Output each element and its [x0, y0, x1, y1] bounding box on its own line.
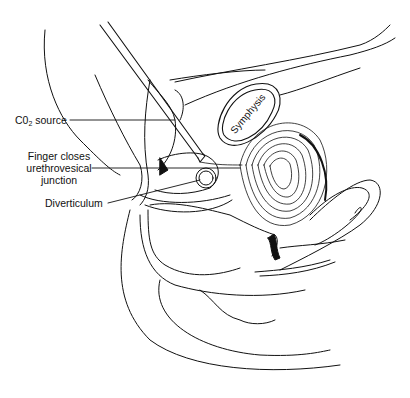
label-co2-source: C02 source: [15, 114, 67, 130]
co2-tube: [100, 22, 205, 162]
label-finger-line2: urethrovesical: [24, 162, 94, 174]
lower-outline: [121, 210, 340, 370]
uterus: [280, 180, 380, 270]
label-co2-rest: source: [32, 114, 66, 126]
bladder: [200, 123, 327, 226]
finger: [140, 153, 232, 212]
label-finger-closes: Finger closes urethrovesical junction: [24, 150, 94, 186]
label-co2-main: C0: [15, 114, 28, 126]
abdominal-wall: [170, 25, 395, 105]
label-finger-line1: Finger closes: [24, 150, 94, 162]
label-diverticulum: Diverticulum: [45, 197, 103, 209]
vaginal-canal: [140, 204, 345, 296]
diverticulum-shape: [196, 168, 216, 188]
label-finger-line3: junction: [24, 174, 94, 186]
